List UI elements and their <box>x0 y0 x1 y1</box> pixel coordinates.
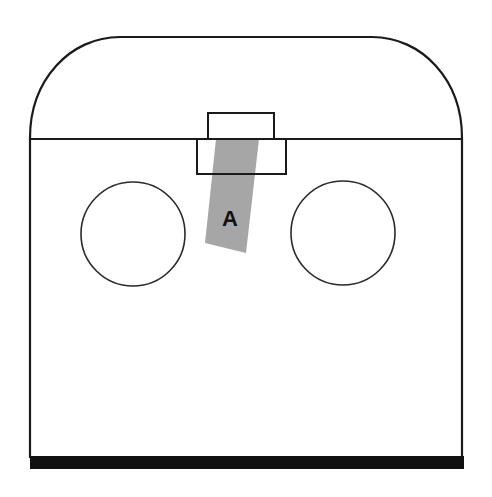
left-circle <box>81 182 185 286</box>
diagram-canvas: A <box>0 0 492 497</box>
right-circle <box>291 181 395 285</box>
shaded-band-a <box>205 139 259 253</box>
base-bar <box>30 456 464 469</box>
region-a-label: A <box>222 206 238 231</box>
upper-small-rectangle <box>208 113 274 139</box>
